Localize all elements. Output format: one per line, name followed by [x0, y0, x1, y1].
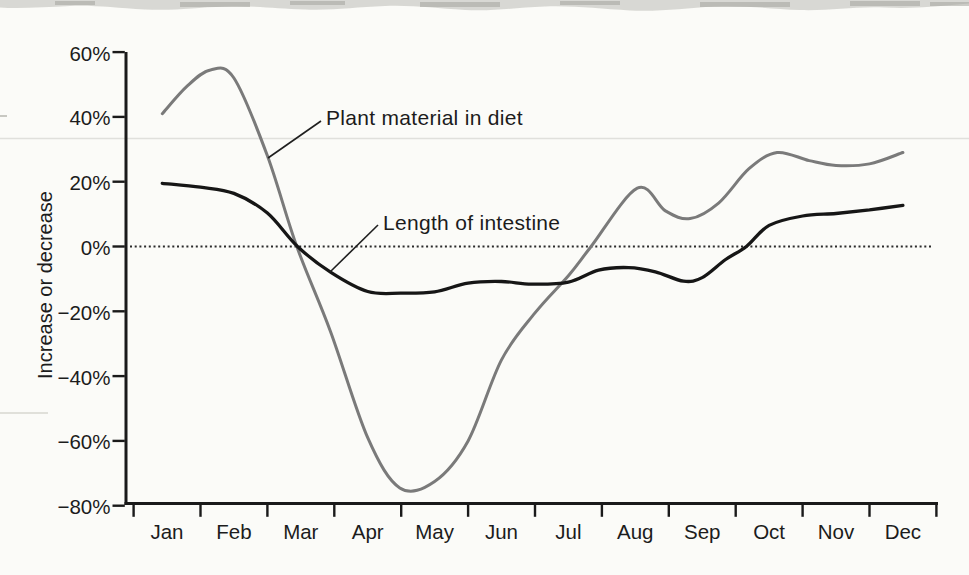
series-line-intestine-length [162, 183, 903, 293]
plant-annotation-label: Plant material in diet [326, 106, 523, 129]
x-tick-label-aug: Aug [617, 520, 653, 543]
x-tick-label-dec: Dec [885, 520, 921, 543]
seasonal-diet-vs-intestine-chart: 60%40%20%0%−20%−40%−60%−80%JanFebMarAprM… [0, 0, 969, 575]
y-tick-label-60: 60% [69, 42, 110, 65]
x-tick-label-may: May [415, 520, 454, 543]
intestine-annotation-label: Length of intestine [383, 211, 560, 234]
y-tick-label--80: −80% [57, 495, 110, 518]
y-tick-label--60: −60% [57, 430, 110, 453]
y-tick-label-40: 40% [69, 106, 110, 129]
scanned-figure-page: 60%40%20%0%−20%−40%−60%−80%JanFebMarAprM… [0, 0, 969, 575]
x-tick-label-jan: Jan [150, 520, 183, 543]
chart-annotations: Plant material in diet Length of intesti… [34, 106, 560, 379]
x-tick-label-sep: Sep [684, 520, 720, 543]
x-tick-label-feb: Feb [216, 520, 251, 543]
y-tick-label-20: 20% [69, 171, 110, 194]
intestine-annotation-leader-line [330, 225, 378, 272]
series-line-plant-material [162, 68, 903, 491]
x-tick-label-nov: Nov [818, 520, 855, 543]
x-tick-label-jun: Jun [485, 520, 518, 543]
y-axis-title: Increase or decrease [34, 191, 56, 379]
scan-artifacts [0, 0, 969, 413]
plant-annotation-leader-line [268, 121, 321, 158]
x-tick-label-oct: Oct [753, 520, 785, 543]
y-tick-label--20: −20% [57, 301, 110, 324]
x-tick-label-apr: Apr [352, 520, 384, 543]
x-tick-label-mar: Mar [283, 520, 318, 543]
x-tick-label-jul: Jul [555, 520, 581, 543]
y-tick-label-0: 0% [81, 236, 111, 259]
y-tick-label--40: −40% [57, 366, 110, 389]
